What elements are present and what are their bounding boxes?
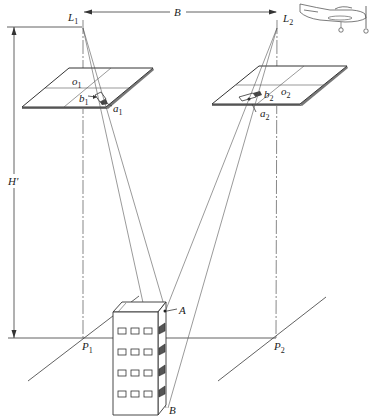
label-flying-height-H: H': [7, 175, 19, 187]
airplane-icon: [300, 4, 368, 33]
label-point-B: B: [169, 404, 176, 416]
right-photo: [212, 66, 348, 112]
ground-lines: [8, 296, 326, 381]
label-L1: L1: [67, 11, 78, 26]
label-P2: P2: [273, 340, 285, 355]
label-air-base-B: B: [174, 6, 181, 18]
stereo-parallax-diagram: L1 L2 B H' o1 b1 a1 o2 b2 a2 P1 P2 A B: [0, 0, 372, 418]
building: [113, 302, 177, 415]
point-A-marker: [164, 310, 167, 313]
label-a2: a2: [260, 107, 270, 122]
label-L2: L2: [282, 12, 293, 27]
label-point-A: A: [178, 304, 186, 316]
label-a1: a1: [113, 102, 123, 117]
label-P1: P1: [81, 340, 93, 355]
